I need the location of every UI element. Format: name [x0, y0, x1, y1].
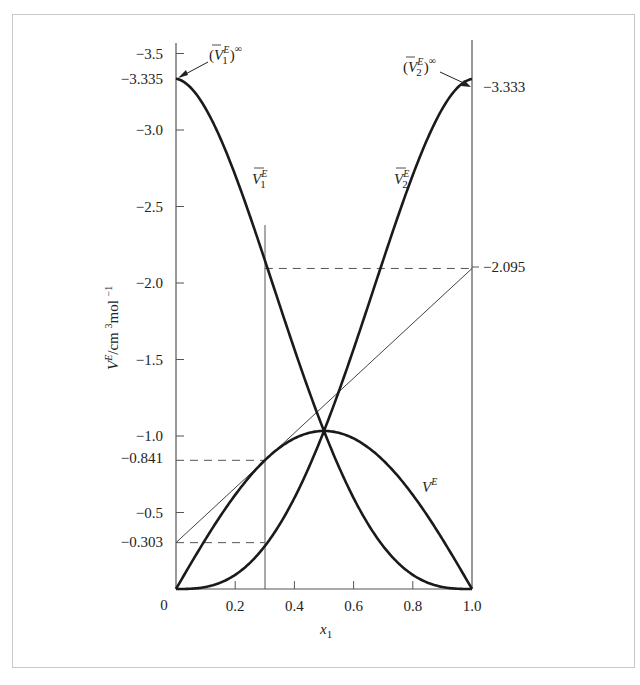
y-tick-label: −2.5: [136, 199, 163, 215]
curve-v2-partial: [176, 79, 472, 589]
x-tick-label: 1.0: [463, 598, 482, 614]
y-tick-label: −3.5: [136, 46, 163, 62]
annotation-v1-infinite-dilution: (VE1)∞: [178, 43, 242, 78]
x-tick-label: 0.4: [285, 598, 304, 614]
label-right-3.333: −3.333: [483, 79, 525, 95]
y-tick-label: −0.5: [136, 505, 163, 521]
curve-ve: [176, 431, 472, 589]
y-tick-label: −1.5: [136, 352, 163, 368]
label-right-2.095: −2.095: [483, 259, 525, 275]
chart-plot-area: −0.5−1.0−1.5−2.0−2.5−3.0−3.5 0.20.40.60.…: [0, 0, 640, 685]
label-left-0.303: −0.303: [121, 534, 163, 550]
curve-label-v1: VE1: [252, 168, 267, 190]
tangent-line: [176, 268, 472, 542]
svg-text:VE: VE: [422, 476, 437, 495]
label-left-3.335: −3.335: [121, 71, 163, 87]
x-axis-label: x1: [319, 621, 332, 640]
label-left-0.841: −0.841: [121, 450, 163, 466]
svg-text:(VE1)∞: (VE1)∞: [209, 43, 242, 66]
svg-text:(VE2)∞: (VE2)∞: [403, 55, 436, 78]
x-tick-label: 0.2: [226, 598, 245, 614]
svg-text:VE1: VE1: [252, 168, 267, 190]
arrowhead-icon: [178, 70, 188, 78]
y-tick-label: −2.0: [136, 275, 163, 291]
curve-label-ve: VE: [422, 476, 437, 495]
y-axis-label: VE/cm 3mol −1: [103, 286, 121, 370]
x-tick-label: 0.6: [344, 598, 363, 614]
curve-label-v2: VE2: [394, 168, 409, 190]
svg-text:VE2: VE2: [394, 168, 409, 190]
label-origin: 0: [160, 597, 168, 613]
y-tick-label: −3.0: [136, 122, 163, 138]
curve-v1-partial: [176, 79, 472, 589]
y-tick-label: −1.0: [136, 428, 163, 444]
x-tick-label: 0.8: [403, 598, 422, 614]
annotation-v2-infinite-dilution: (VE2)∞: [403, 55, 471, 87]
